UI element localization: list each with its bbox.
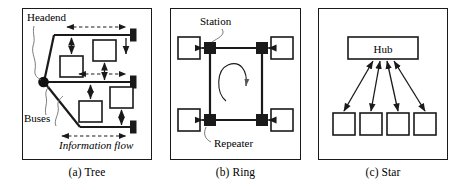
buses-leader	[55, 96, 63, 126]
ring-station-box	[178, 37, 200, 59]
ring-repeater	[204, 42, 216, 54]
buses-leader	[45, 86, 49, 115]
tree-station-box	[93, 40, 116, 61]
caption-ring: (b) Ring	[170, 166, 301, 178]
panel-star: Hub	[318, 8, 448, 160]
headend-node	[38, 77, 49, 88]
hub-label: Hub	[374, 43, 393, 55]
tree-station-box	[110, 87, 133, 108]
star-link	[371, 61, 380, 111]
bus-terminator	[130, 29, 137, 42]
star-station-box	[333, 113, 355, 135]
headend-leader	[33, 26, 41, 80]
star-link	[344, 61, 373, 111]
ring-repeater	[256, 42, 268, 54]
network-topology-figure: Headend Buses Information flow	[0, 0, 462, 190]
station-label: Station	[200, 15, 232, 27]
headend-label: Headend	[27, 11, 67, 23]
star-station-box	[387, 113, 409, 135]
star-station-box	[360, 113, 382, 135]
bus-terminator	[130, 121, 137, 134]
star-link	[394, 61, 425, 111]
ring-repeater	[256, 114, 268, 126]
star-link	[387, 61, 398, 111]
ring-topology-drawing: Station Repeater	[170, 8, 301, 160]
tree-station-box	[79, 101, 102, 122]
repeater-label: Repeater	[214, 137, 253, 149]
ring-station-box	[178, 109, 200, 131]
caption-star: (c) Star	[318, 166, 448, 178]
tree-topology-drawing: Headend Buses Information flow	[22, 8, 152, 160]
buses-label: Buses	[24, 112, 50, 124]
ring-direction-arrow	[219, 64, 247, 101]
panel-ring: Station Repeater	[170, 8, 301, 160]
station-leader	[212, 29, 223, 42]
information-flow-label: Information flow	[58, 139, 134, 151]
panel-tree: Headend Buses Information flow	[22, 8, 152, 160]
caption-tree: (a) Tree	[22, 166, 152, 178]
star-station-box	[414, 113, 436, 135]
ring-station-box	[271, 109, 293, 131]
repeater-leader	[205, 127, 211, 142]
ring-station-box	[271, 37, 293, 59]
star-topology-drawing: Hub	[318, 8, 448, 160]
ring-repeater	[204, 114, 216, 126]
